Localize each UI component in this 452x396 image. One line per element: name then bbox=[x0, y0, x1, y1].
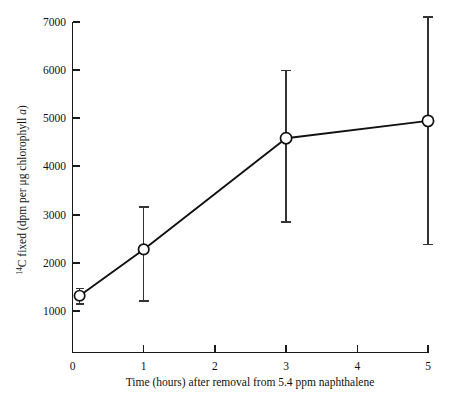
line-chart-canvas: 1000 2000 3000 4000 5000 6000 7000 0 1 2… bbox=[0, 0, 452, 396]
y-tick-label-5000: 5000 bbox=[43, 112, 66, 124]
chart-figure: 1000 2000 3000 4000 5000 6000 7000 0 1 2… bbox=[0, 0, 452, 396]
x-tick-label-3: 3 bbox=[283, 360, 289, 372]
chart-axes bbox=[73, 22, 429, 353]
data-point-2 bbox=[281, 133, 292, 144]
error-bar-point-3 bbox=[423, 17, 433, 244]
error-bar-point-2 bbox=[281, 71, 291, 223]
data-point-1 bbox=[139, 244, 149, 254]
x-tick-label-5: 5 bbox=[425, 360, 431, 372]
x-axis-title: Time (hours) after removal from 5.4 ppm … bbox=[126, 376, 375, 389]
y-tick-label-4000: 4000 bbox=[43, 160, 66, 172]
x-tick-label-2: 2 bbox=[212, 360, 218, 372]
data-series-line bbox=[80, 121, 428, 296]
data-markers bbox=[74, 115, 433, 301]
x-tick-label-1: 1 bbox=[141, 360, 147, 372]
data-point-0 bbox=[74, 291, 84, 301]
data-point-3 bbox=[422, 115, 433, 126]
y-axis-title-main: C fixed (dpm per μg chlorophyll bbox=[16, 115, 29, 267]
y-tick-label-2000: 2000 bbox=[43, 257, 66, 269]
y-tick-label-1000: 1000 bbox=[43, 305, 66, 317]
y-axis-ticks bbox=[73, 22, 81, 311]
y-axis-title-suffix: ) bbox=[16, 105, 29, 109]
y-axis-title: 14C fixed (dpm per μg chlorophyll a) bbox=[15, 105, 30, 275]
y-tick-label-3000: 3000 bbox=[43, 209, 66, 221]
x-tick-label-4: 4 bbox=[354, 360, 360, 372]
x-axis-ticks bbox=[73, 345, 429, 353]
y-tick-label-6000: 6000 bbox=[43, 64, 66, 76]
x-tick-label-0: 0 bbox=[70, 360, 76, 372]
y-tick-label-7000: 7000 bbox=[43, 16, 66, 28]
